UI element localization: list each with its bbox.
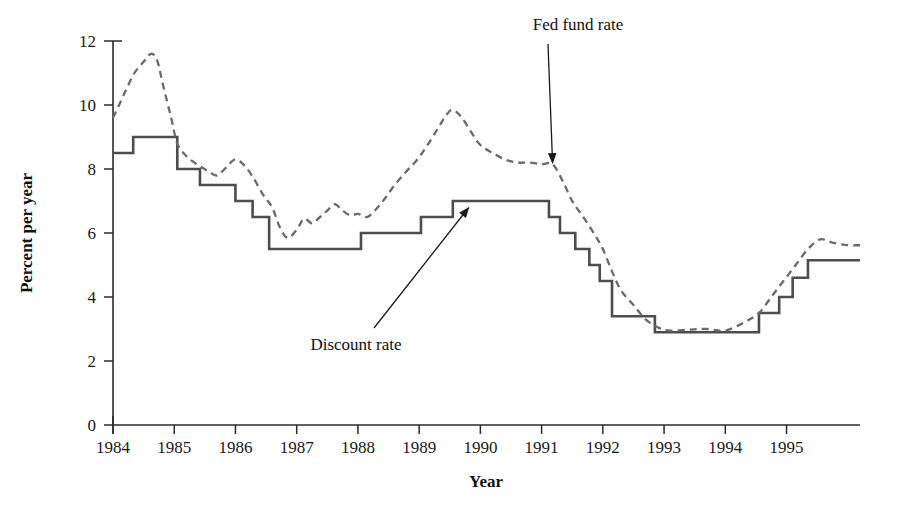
x-tick-label-1984: 1984 — [96, 438, 131, 457]
annotation-leader-fed-fund-rate — [548, 44, 552, 158]
chart-axes — [113, 41, 860, 425]
x-axis-title: Year — [469, 472, 503, 491]
y-tick-label-6: 6 — [88, 224, 97, 243]
chart-annotations-layer: Fed fund rateDiscount rate — [310, 15, 623, 354]
x-axis-ticks: 1984198519861987198819891990199119921993… — [96, 41, 804, 457]
y-tick-label-10: 10 — [79, 96, 96, 115]
y-tick-label-8: 8 — [88, 160, 97, 179]
x-tick-label-1995: 1995 — [770, 438, 804, 457]
x-tick-label-1992: 1992 — [586, 438, 620, 457]
x-tick-label-1988: 1988 — [341, 438, 375, 457]
x-tick-label-1985: 1985 — [157, 438, 191, 457]
chart-figure: 024681012 198419851986198719881989199019… — [0, 0, 921, 512]
y-tick-label-2: 2 — [88, 352, 97, 371]
series-fed-fund-rate — [113, 54, 860, 331]
series-discount-rate — [113, 137, 860, 332]
x-tick-label-1991: 1991 — [525, 438, 559, 457]
y-axis-ticks: 024681012 — [79, 32, 113, 435]
y-tick-label-0: 0 — [88, 416, 97, 435]
annotation-arrowhead-discount-rate — [459, 207, 469, 218]
annotation-label-discount-rate: Discount rate — [310, 335, 401, 354]
annotation-label-fed-fund-rate: Fed fund rate — [533, 15, 624, 34]
x-tick-label-1986: 1986 — [218, 438, 252, 457]
x-tick-label-1987: 1987 — [280, 438, 315, 457]
y-tick-label-4: 4 — [88, 288, 97, 307]
x-tick-label-1994: 1994 — [708, 438, 743, 457]
y-axis-title: Percent per year — [17, 172, 36, 293]
x-tick-label-1993: 1993 — [647, 438, 681, 457]
line-chart: 024681012 198419851986198719881989199019… — [0, 0, 921, 512]
annotation-arrowhead-fed-fund-rate — [548, 153, 557, 164]
chart-series-layer — [113, 54, 860, 332]
y-tick-label-12: 12 — [79, 32, 96, 51]
x-tick-label-1990: 1990 — [463, 438, 497, 457]
x-tick-label-1989: 1989 — [402, 438, 436, 457]
